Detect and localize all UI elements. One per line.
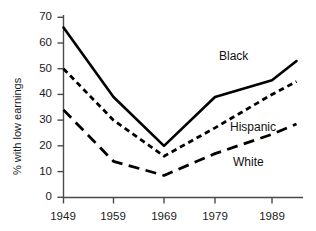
y-tick-label-60: 60 xyxy=(22,37,52,49)
y-axis-title: % with low earnings xyxy=(12,78,23,175)
y-tick-label-20: 20 xyxy=(22,140,52,152)
series-label-black: Black xyxy=(219,50,248,62)
x-tick-label-1949: 1949 xyxy=(41,211,85,223)
x-tick-label-1969: 1969 xyxy=(142,211,186,223)
y-tick-label-0: 0 xyxy=(22,191,52,203)
x-tick-label-1989: 1989 xyxy=(250,211,294,223)
y-tick-label-50: 50 xyxy=(22,63,52,75)
series-label-hispanic: Hispanic xyxy=(230,121,276,133)
y-tick-label-70: 70 xyxy=(22,11,52,23)
x-tick-label-1979: 1979 xyxy=(193,211,237,223)
x-axis-ticks xyxy=(64,198,273,204)
y-tick-label-30: 30 xyxy=(22,114,52,126)
series-label-white: White xyxy=(233,156,264,168)
y-tick-label-10: 10 xyxy=(22,166,52,178)
chart-container: 70 60 50 40 30 20 10 0 1949 1959 1969 19… xyxy=(0,0,316,231)
y-tick-label-40: 40 xyxy=(22,88,52,100)
x-tick-label-1959: 1959 xyxy=(91,211,135,223)
y-axis-ticks xyxy=(58,17,64,197)
series-line-hispanic xyxy=(64,69,297,156)
data-series-group xyxy=(64,28,297,176)
